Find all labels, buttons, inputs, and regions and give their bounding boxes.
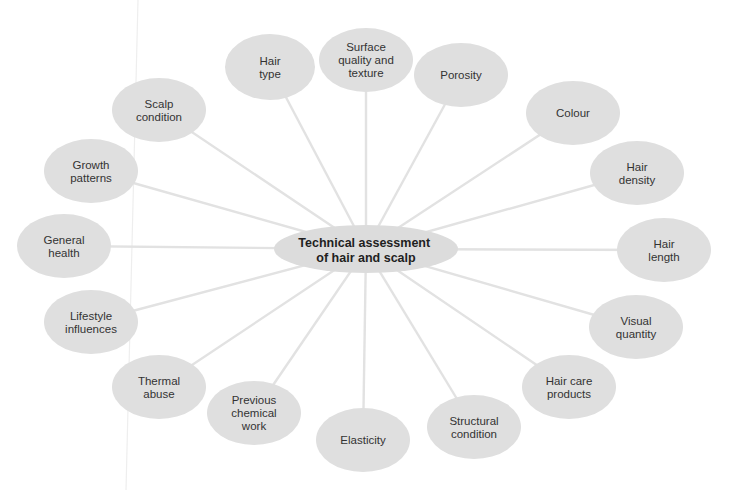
node-label-line: patterns — [70, 172, 112, 184]
node-label-line: Lifestyle — [70, 310, 112, 322]
node-general-health: Generalhealth — [17, 214, 111, 278]
node-label: Generalhealth — [44, 234, 85, 259]
node-label-line: Hair — [653, 238, 674, 250]
central-topic: Technical assessment of hair and scalp — [274, 225, 458, 273]
node-label-line: products — [547, 388, 591, 400]
node-elasticity: Elasticity — [316, 408, 410, 472]
node-hair-type: Hairtype — [225, 34, 315, 100]
node-label-line: Elasticity — [340, 434, 386, 446]
node-label-line: health — [48, 247, 79, 259]
node-label-line: Thermal — [138, 375, 180, 387]
node-hair-care-products: Hair careproducts — [522, 355, 616, 419]
node-thermal-abuse: Thermalabuse — [112, 355, 206, 419]
node-label-line: Colour — [556, 107, 590, 119]
node-label-line: work — [241, 420, 267, 432]
node-label-line: Hair — [626, 161, 647, 173]
node-label-line: quality and — [338, 54, 394, 66]
node-label: Colour — [556, 107, 590, 119]
node-label-line: Growth — [72, 159, 109, 171]
node-label: Hair careproducts — [546, 375, 593, 400]
node-label: Porosity — [440, 69, 482, 81]
node-colour: Colour — [526, 81, 620, 145]
node-label-line: Surface — [346, 41, 386, 53]
node-label-line: Hair care — [546, 375, 593, 387]
node-label-line: type — [259, 68, 281, 80]
node-label: Elasticity — [340, 434, 386, 446]
central-topic-line-2: of hair and scalp — [316, 251, 416, 265]
node-label: Structuralcondition — [449, 415, 498, 440]
node-scalp-condition: Scalpcondition — [112, 78, 206, 142]
spider-diagram: HairtypeSurfacequality andtexturePorosit… — [0, 0, 744, 490]
node-label-line: density — [619, 174, 656, 186]
node-lifestyle-influences: Lifestyleinfluences — [44, 290, 138, 354]
node-growth-patterns: Growthpatterns — [44, 139, 138, 203]
node-label: Thermalabuse — [138, 375, 180, 400]
node-visual-quantity: Visualquantity — [589, 295, 683, 359]
node-label: Lifestyleinfluences — [65, 310, 117, 335]
node-label-line: Porosity — [440, 69, 482, 81]
central-topic-label: Technical assessment of hair and scalp — [298, 236, 433, 265]
node-label-line: chemical — [231, 407, 276, 419]
node-label-line: abuse — [143, 388, 174, 400]
node-label: Visualquantity — [616, 315, 657, 340]
node-label-line: condition — [451, 428, 497, 440]
node-label-line: condition — [136, 111, 182, 123]
node-structural-condition: Structuralcondition — [427, 395, 521, 459]
node-label-line: Hair — [259, 55, 280, 67]
node-previous-chemical-work: Previouschemicalwork — [207, 381, 301, 445]
node-label-line: Scalp — [145, 98, 174, 110]
scan-artifact-line — [126, 0, 138, 490]
node-label-line: General — [44, 234, 85, 246]
node-label-line: length — [648, 251, 679, 263]
node-label-line: texture — [348, 67, 383, 79]
central-topic-line-1: Technical assessment — [298, 236, 431, 250]
node-label: Growthpatterns — [70, 159, 112, 184]
node-label-line: Visual — [620, 315, 651, 327]
node-label-line: influences — [65, 323, 117, 335]
node-label-line: Previous — [232, 394, 277, 406]
node-label-line: Structural — [449, 415, 498, 427]
node-label: Hairtype — [259, 55, 281, 80]
node-hair-density: Hairdensity — [590, 141, 684, 205]
node-porosity: Porosity — [414, 43, 508, 107]
node-label-line: quantity — [616, 328, 657, 340]
node-surface-quality-and-texture: Surfacequality andtexture — [319, 28, 413, 92]
node-hair-length: Hairlength — [617, 218, 711, 282]
